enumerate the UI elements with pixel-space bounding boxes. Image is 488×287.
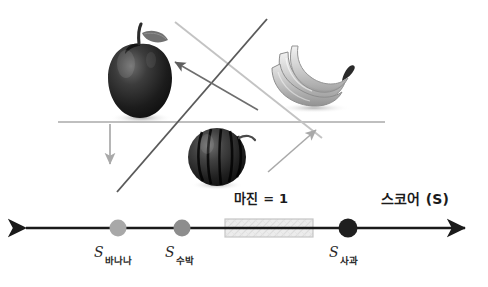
score-axis-label: 스코어 (S) bbox=[381, 192, 449, 206]
score-label-banana: S바나나 bbox=[94, 244, 131, 263]
score-label-watermelon: S수박 bbox=[165, 244, 193, 263]
score-label-banana-sub: 바나나 bbox=[105, 255, 132, 266]
score-dot-watermelon bbox=[174, 220, 191, 237]
score-label-banana-base: S bbox=[94, 244, 104, 260]
score-dot-apple bbox=[339, 219, 358, 238]
margin-label: 마진 = 1 bbox=[234, 192, 288, 205]
score-label-apple-base: S bbox=[329, 244, 339, 260]
score-label-apple-sub: 사과 bbox=[340, 255, 358, 266]
arrow-to-banana bbox=[268, 130, 316, 172]
figure-canvas: 마진 = 1 스코어 (S) S바나나 S수박 S사과 bbox=[0, 0, 488, 287]
score-label-apple: S사과 bbox=[329, 244, 357, 263]
score-label-watermelon-sub: 수박 bbox=[176, 255, 194, 266]
arrow-to-apple bbox=[175, 62, 258, 110]
score-dot-banana bbox=[110, 220, 127, 237]
decision-boundary-diagonal-dark bbox=[117, 19, 267, 192]
score-label-watermelon-base: S bbox=[165, 244, 175, 260]
